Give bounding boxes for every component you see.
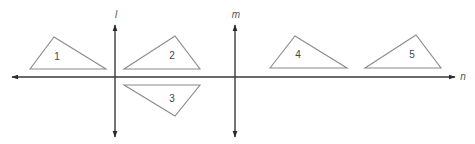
triangle-1: 1 — [30, 37, 106, 69]
triangle-3-shape — [124, 85, 200, 116]
triangle-5-label: 5 — [409, 49, 415, 60]
triangle-2: 2 — [124, 36, 200, 69]
reflection-diagram: 1 2 3 4 5 l m n — [0, 0, 475, 144]
triangle-1-shape — [30, 37, 106, 69]
line-m-label: m — [232, 9, 240, 20]
triangle-5: 5 — [365, 35, 441, 68]
triangle-4-shape — [270, 36, 347, 68]
triangle-4-label: 4 — [295, 49, 301, 60]
triangle-3-label: 3 — [169, 93, 175, 104]
triangle-2-shape — [124, 36, 200, 69]
line-l-label: l — [115, 9, 118, 20]
triangle-2-label: 2 — [169, 50, 175, 61]
triangle-4: 4 — [270, 36, 347, 68]
triangle-3: 3 — [124, 85, 200, 116]
triangle-1-label: 1 — [54, 51, 60, 62]
line-n-label: n — [460, 71, 466, 82]
triangle-5-shape — [365, 35, 441, 68]
